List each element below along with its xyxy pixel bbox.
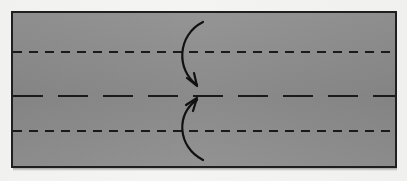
fold-overlay [0, 0, 407, 181]
figure-canvas [0, 0, 407, 181]
fold-down-arrow [182, 22, 203, 86]
fold-down-arrow-shaft [182, 22, 203, 85]
fold-up-arrow [182, 98, 203, 160]
